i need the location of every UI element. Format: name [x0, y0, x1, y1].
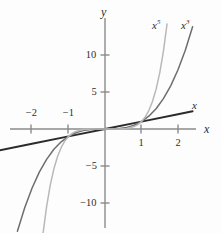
y-tick-label-10: 10 — [86, 50, 97, 61]
y-tick-label--5: −5 — [86, 161, 97, 172]
x-axis-label: x — [204, 123, 209, 135]
curve-label-x: x — [192, 100, 197, 111]
function-graph-figure: y x −2−112105−5−10 x5x3x — [0, 0, 222, 233]
axes-group — [10, 18, 196, 228]
curve-label-x3: x3 — [181, 20, 189, 31]
y-tick-label-5: 5 — [91, 87, 96, 98]
y-tick-label--10: −10 — [80, 198, 96, 209]
curve-label-base: x — [192, 99, 197, 111]
curve-label-x5: x5 — [152, 20, 160, 31]
curve-label-exponent: 3 — [186, 18, 190, 26]
x-tick-label-1: 1 — [138, 138, 143, 149]
x-tick-label--2: −2 — [26, 108, 37, 119]
x-tick-label-2: 2 — [175, 138, 180, 149]
x-tick-label--1: −1 — [63, 108, 74, 119]
y-axis-label: y — [101, 6, 106, 18]
curve-label-exponent: 5 — [157, 18, 161, 26]
